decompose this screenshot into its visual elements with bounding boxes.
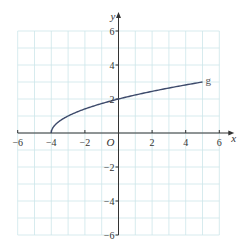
y-tick-label: −6 [104, 230, 115, 241]
x-tick-label: −2 [80, 137, 91, 148]
function-graph: −6−4−2246642−2−4−6xyOg [0, 0, 242, 247]
x-tick-label: 4 [183, 137, 188, 148]
x-tick-label: 6 [217, 137, 222, 148]
axes [18, 12, 235, 235]
y-tick-label: 4 [110, 60, 115, 71]
x-axis-label: x [230, 132, 236, 144]
curve-path [51, 82, 202, 133]
y-tick-label: 2 [110, 94, 115, 105]
x-tick-label: −4 [46, 137, 57, 148]
x-tick-label: −6 [12, 137, 23, 148]
x-tick-label: 2 [150, 137, 155, 148]
y-axis-arrow-icon [116, 12, 121, 18]
y-axis-label: y [110, 10, 116, 22]
origin-label: O [107, 136, 115, 148]
curve-g [51, 82, 202, 133]
y-tick-label: −2 [104, 162, 115, 173]
curve-label-g: g [206, 74, 212, 86]
y-tick-label: −4 [104, 196, 115, 207]
y-tick-label: 6 [110, 26, 115, 37]
